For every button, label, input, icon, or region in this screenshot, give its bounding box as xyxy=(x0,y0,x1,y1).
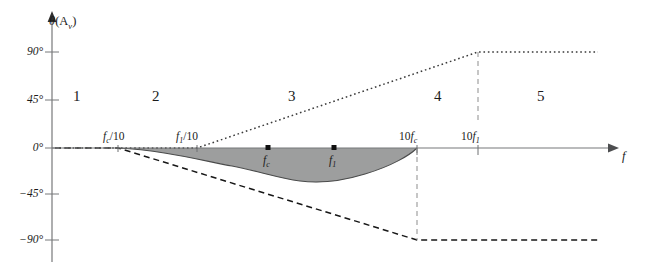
x-label-f1-sub: 1 xyxy=(332,160,336,169)
x-label-ten-fc-lead: 10 xyxy=(399,130,411,142)
region-label-3: 3 xyxy=(288,89,296,104)
region-label-5: 5 xyxy=(537,89,545,104)
zero-asymptote-dotted-line xyxy=(55,52,598,148)
x-axis-title: f xyxy=(622,150,625,163)
y-tick-label-minus-45: −45° xyxy=(0,188,43,200)
x-label-fc-over-10-tail: /10 xyxy=(110,130,125,142)
y-axis-title: θ(Av) xyxy=(49,15,76,30)
x-axis-arrowhead xyxy=(608,144,619,153)
plot-canvas xyxy=(0,0,647,273)
x-label-fc-sub: c xyxy=(266,160,270,169)
x-label-f1-over-10: f1/10 xyxy=(176,131,198,145)
x-label-f1-over-10-tail: /10 xyxy=(183,130,198,142)
y-tick-label-45: 45° xyxy=(0,94,43,106)
marker-point-f1 xyxy=(332,145,337,150)
x-label-fc-over-10: fc/10 xyxy=(103,131,124,145)
y-axis-title-a: A xyxy=(59,14,68,28)
marker-point-fc xyxy=(266,145,271,150)
y-axis-title-paren-close: ) xyxy=(72,14,76,28)
y-tick-label-90: 90° xyxy=(0,46,43,58)
x-label-ten-f1-sub: 1 xyxy=(476,136,480,145)
phase-bode-plot-figure: θ(Av) 90° 45° 0° −45° −90° f fc/10 f1/10… xyxy=(0,0,647,273)
x-label-ten-f1-lead: 10 xyxy=(461,130,473,142)
region-label-2: 2 xyxy=(152,89,160,104)
x-label-ten-f1: 10f1 xyxy=(461,131,480,145)
x-label-fc: fc xyxy=(263,155,270,169)
region-label-4: 4 xyxy=(434,89,442,104)
x-label-ten-fc: 10fc xyxy=(399,131,417,145)
region-label-1: 1 xyxy=(73,89,81,104)
y-tick-label-minus-90: −90° xyxy=(0,234,43,246)
x-label-f1: f1 xyxy=(329,155,336,169)
y-tick-label-0: 0° xyxy=(0,142,43,154)
x-label-ten-fc-sub: c xyxy=(414,136,418,145)
